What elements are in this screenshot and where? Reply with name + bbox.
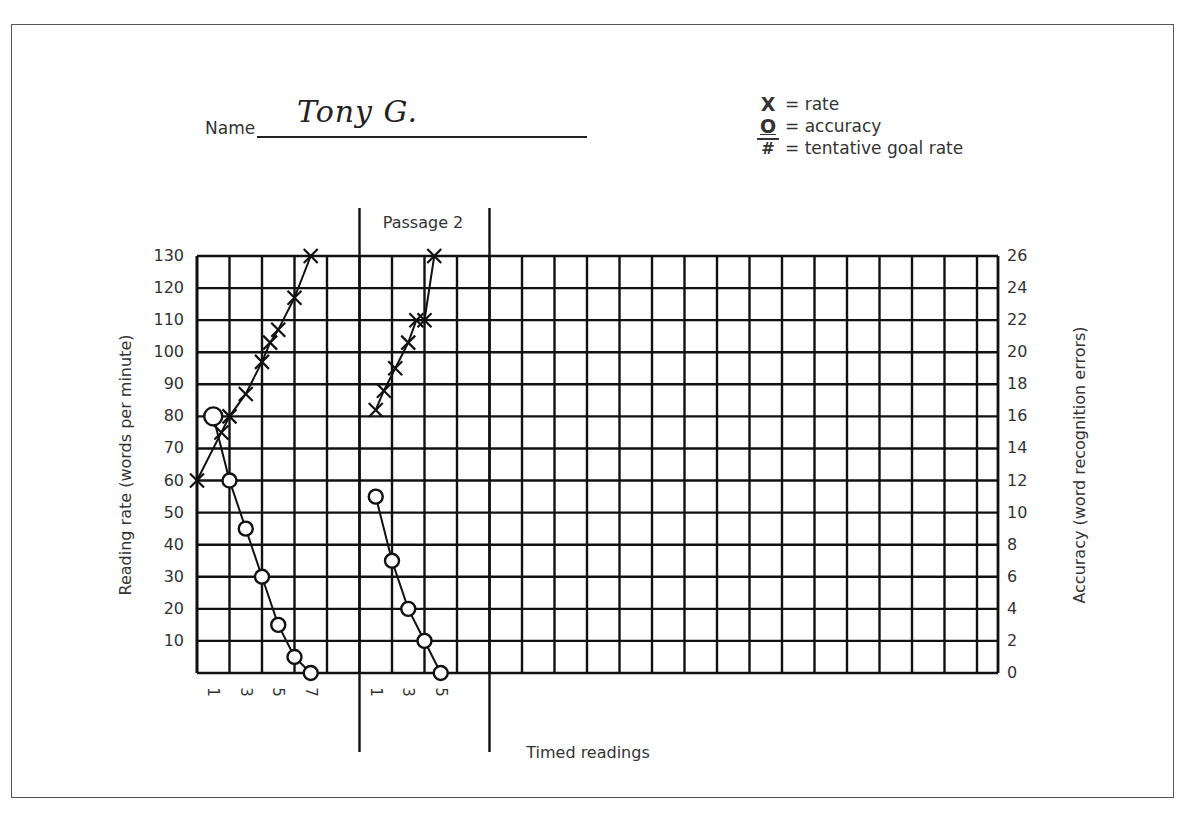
- chart-plot: [0, 0, 1192, 815]
